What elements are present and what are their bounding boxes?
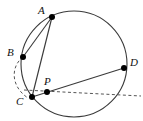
point-p-marker — [44, 89, 50, 95]
point-d-marker — [121, 65, 127, 71]
dashed-tangent-line-at-c — [24, 90, 141, 96]
point-label-a: A — [38, 5, 45, 16]
chord-ab — [23, 17, 52, 57]
point-label-p: P — [44, 76, 51, 87]
point-label-d: D — [130, 57, 138, 68]
main-circle — [21, 11, 127, 117]
geometry-figure: A B C P D — [0, 0, 143, 121]
point-label-c: C — [16, 96, 23, 107]
point-c-marker — [29, 94, 35, 100]
point-b-marker — [20, 54, 26, 60]
point-a-marker — [49, 14, 55, 20]
point-label-b: B — [7, 47, 14, 58]
